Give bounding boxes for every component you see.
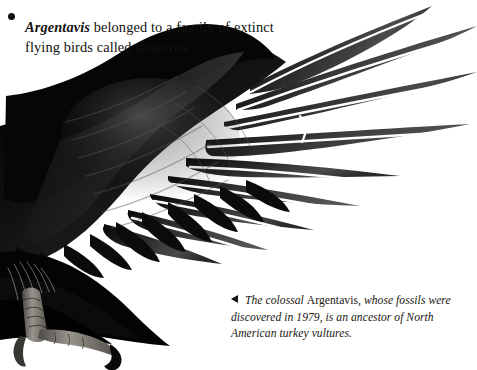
bullet-note: Argentavis belonged to a family of extin… (8, 4, 308, 71)
feather-striations (66, 76, 250, 228)
body-and-tail (0, 251, 170, 346)
caption-lead: The colossal (245, 294, 307, 307)
species-name-argentavis: Argentavis (25, 19, 90, 35)
textbook-page: Argentavis belonged to a family of extin… (0, 0, 477, 370)
caption-species-name: Argentavis (307, 294, 358, 307)
bullet-row: Argentavis belonged to a family of extin… (8, 4, 308, 71)
leg-and-talon (13, 288, 121, 370)
secondary-feather-scallops (16, 180, 290, 282)
bullet-note-text: Argentavis belonged to a family of extin… (25, 18, 308, 56)
left-pointing-triangle-icon (231, 295, 238, 303)
bullet-dot-icon (8, 13, 15, 20)
thigh-feather-wisps (8, 262, 55, 300)
figure-caption: The colossal Argentavis, whose fossils w… (231, 293, 467, 344)
